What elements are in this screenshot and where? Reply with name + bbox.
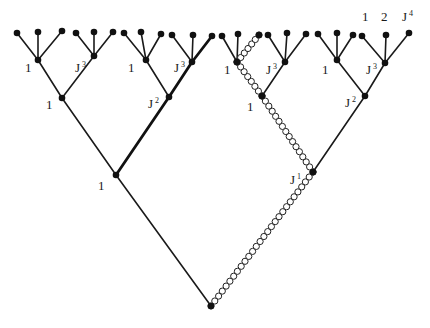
node-label: J3: [266, 62, 277, 77]
node-label: 1: [322, 62, 329, 77]
top-label: J4: [402, 9, 413, 24]
node-label: 1: [128, 60, 135, 75]
thick-path: [116, 36, 212, 175]
tree-leaves: [14, 28, 413, 40]
node-label: J3: [366, 62, 377, 77]
node-label: 1: [98, 178, 105, 193]
top-labels: 12J4: [362, 9, 413, 24]
top-label: 1: [362, 9, 369, 24]
tree-diagram: 1J31J31J31J31J21J21J1 12J4: [0, 0, 430, 328]
node-label: 1: [224, 62, 231, 77]
node-label: 1: [46, 97, 53, 112]
node-label: J2: [345, 95, 356, 110]
top-label: 2: [381, 9, 388, 24]
node-label: J2: [148, 96, 159, 111]
node-label: 1: [247, 99, 254, 114]
node-label: 1: [25, 60, 32, 75]
tree-nodes: [35, 53, 389, 310]
node-labels: 1J31J31J31J31J21J21J1: [25, 60, 377, 193]
